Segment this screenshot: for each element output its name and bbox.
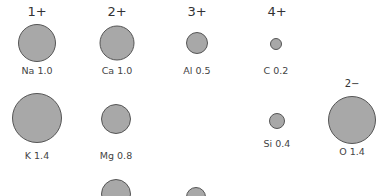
ion-circle-na [18,24,56,62]
charge-label-4plus: 4+ [267,4,286,19]
charge-label-3plus: 3+ [187,4,206,19]
charge-label-2minus: 2− [345,78,360,89]
charge-label-2plus: 2+ [107,4,126,19]
ion-circle-mg [101,104,131,134]
ion-label-al: Al 0.5 [183,65,210,76]
ion-label-k: K 1.4 [25,150,49,161]
ion-label-na: Na 1.0 [21,65,52,76]
ion-circle-partial-2 [186,187,206,196]
ion-label-c: C 0.2 [264,65,289,76]
ion-label-ca: Ca 1.0 [102,65,133,76]
ion-circle-ca [100,26,135,61]
ion-circle-al [186,32,208,54]
ion-circle-partial-1 [101,179,131,196]
ion-circle-si [269,113,285,129]
ion-label-mg: Mg 0.8 [100,150,132,161]
charge-label-1plus: 1+ [27,4,46,19]
ion-circle-k [12,93,62,143]
ion-label-si: Si 0.4 [264,138,291,149]
ion-label-o: O 1.4 [339,146,365,157]
ion-circle-c [270,38,282,50]
ion-circle-o [328,96,376,144]
ionic-radii-diagram: 1+ 2+ 3+ 4+ 2− Na 1.0 Ca 1.0 Al 0.5 C 0.… [0,0,392,196]
